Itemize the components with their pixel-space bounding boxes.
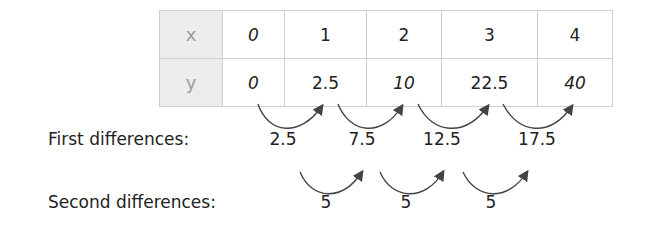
first-difference-value: 12.5 [423, 129, 461, 149]
second-differences-label: Second differences: [48, 192, 216, 212]
arrow-icon [300, 172, 362, 194]
first-differences-label: First differences: [48, 129, 189, 149]
arrow-icon [258, 104, 322, 128]
arrow-icon [463, 172, 527, 194]
arrow-icon [380, 172, 443, 194]
arrow-icon [418, 104, 488, 128]
arrow-icon [338, 104, 402, 128]
first-difference-value: 17.5 [518, 129, 556, 149]
arrow-icon [503, 104, 572, 128]
second-difference-value: 5 [321, 192, 332, 212]
second-difference-value: 5 [401, 192, 412, 212]
first-difference-value: 7.5 [348, 129, 375, 149]
second-difference-value: 5 [486, 192, 497, 212]
first-difference-value: 2.5 [269, 129, 296, 149]
